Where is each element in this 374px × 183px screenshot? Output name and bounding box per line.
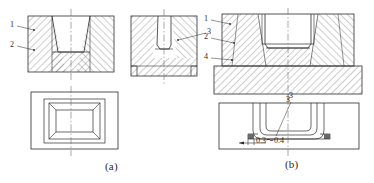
label-b-1: 1: [204, 15, 208, 23]
technical-drawing-canvas: [0, 0, 374, 183]
plan-taper-bl-a: [49, 132, 56, 139]
panel-b-front-section: [211, 8, 362, 100]
label-a-1: 1: [10, 21, 14, 29]
leader-dot-a-3: [177, 39, 179, 41]
label-b-4: 4: [204, 53, 208, 61]
label-b-3-plan: 3: [289, 92, 293, 100]
panel-a-front-section-right: [131, 9, 206, 84]
label-b-2: 2: [204, 33, 208, 41]
plan-inner-rect-a: [49, 103, 100, 139]
caption-a: (a): [105, 160, 118, 172]
drawing-sheet: 1 2 3 1 2 4 3 3 0.3～0.4 (a) (b): [0, 0, 374, 183]
caption-b: (b): [285, 158, 298, 170]
plan-taper-tr-a: [93, 103, 100, 110]
panel-a-front-section-left: [17, 9, 114, 80]
clearance-dimension: 0.3～0.4: [256, 137, 284, 145]
plan-taper-tl-a: [49, 103, 56, 110]
leader-dot-b-4: [231, 59, 233, 61]
hatch-left-wall-a2: [131, 16, 158, 58]
plan-corner-block-left-b: [248, 134, 254, 139]
leader-dot-a-1: [33, 29, 35, 31]
dimension-arrow-b: [239, 142, 244, 145]
plan-outer-rect-b: [219, 103, 359, 149]
leader-dot-a-2: [33, 49, 35, 51]
plan-outer-round-b: [253, 103, 324, 139]
panel-b-plan-view: [219, 98, 359, 156]
leader-dot-b-1: [229, 23, 231, 25]
plan-taper-br-a: [93, 132, 100, 139]
leader-dot-b-2: [233, 42, 235, 44]
plan-corner-block-right-b: [324, 134, 330, 139]
panel-a-plan-view: [31, 86, 118, 156]
hatch-right-wall-a2: [171, 16, 197, 58]
label-a-2: 2: [10, 41, 14, 49]
plan-mid-rect-a: [44, 99, 105, 143]
plan-cavity-rect-a: [56, 110, 93, 132]
